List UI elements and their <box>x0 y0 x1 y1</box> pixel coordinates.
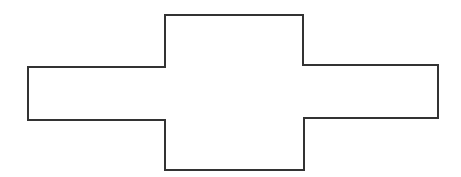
cross-shape-outline <box>28 15 438 170</box>
diagram-canvas <box>0 0 461 177</box>
diagram-svg <box>0 0 461 177</box>
